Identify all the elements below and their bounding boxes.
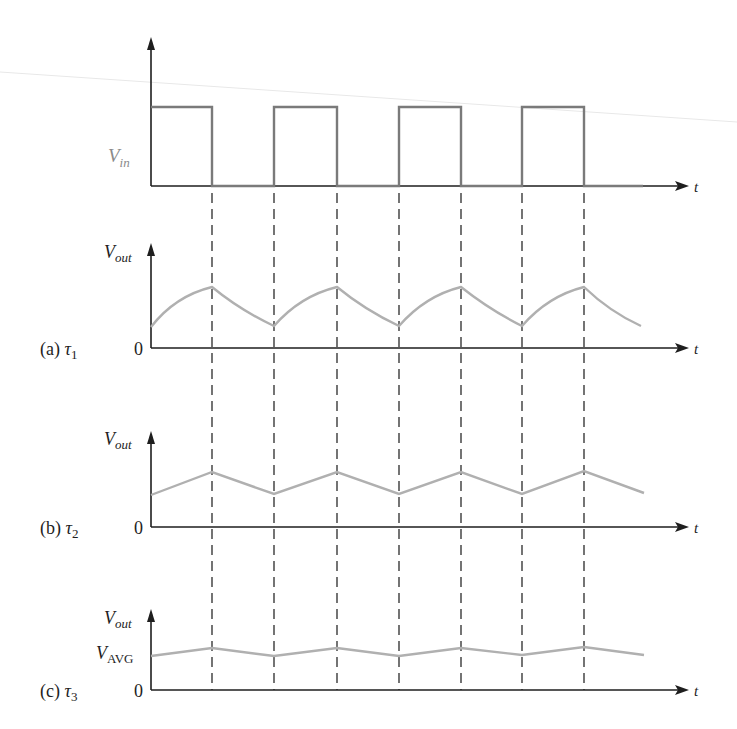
panel-b-output-curve: [151, 471, 644, 495]
panel-b-vout-label: Vout: [104, 429, 132, 452]
panel-c-vavg-label: VAVG: [96, 643, 134, 666]
panel-c-y-axis-arrow-icon: [147, 609, 155, 622]
panel-a-zero-label: 0: [134, 339, 143, 359]
panel-a-vout-label: Vout: [104, 242, 132, 265]
panel-b: t Vout 0 (b) τ2: [40, 429, 699, 541]
panel-c-output-curve: [151, 647, 644, 656]
panel-c-zero-label: 0: [134, 681, 143, 701]
panel-a: t Vout 0 (a) τ1: [40, 242, 699, 362]
panel-c-t-label: t: [694, 683, 699, 699]
dashed-guides: [212, 193, 584, 690]
rc-filter-diagram: t Vin t Vout 0 (a) τ1 t Vout 0 (b) τ2: [0, 0, 737, 729]
panel-c: t Vout VAVG 0 (c) τ3: [40, 608, 699, 704]
panel-a-y-axis-arrow-icon: [147, 243, 155, 256]
panel-a-t-label: t: [694, 341, 699, 357]
vin-y-axis-arrow-icon: [147, 37, 155, 50]
square-wave-input: [151, 107, 643, 186]
panel-b-zero-label: 0: [134, 518, 143, 538]
vin-label: Vin: [108, 145, 130, 170]
panel-b-y-axis-arrow-icon: [147, 431, 155, 444]
panel-c-vout-label: Vout: [104, 608, 132, 631]
scan-artifact-line: [0, 72, 737, 122]
panel-a-caption: (a) τ1: [40, 339, 77, 362]
panel-c-caption: (c) τ3: [40, 681, 77, 704]
panel-a-output-curve: [151, 287, 641, 327]
vin-t-label: t: [694, 179, 699, 195]
input-panel: t Vin: [108, 37, 699, 195]
panel-b-caption: (b) τ2: [40, 518, 78, 541]
panel-b-t-label: t: [694, 520, 699, 536]
